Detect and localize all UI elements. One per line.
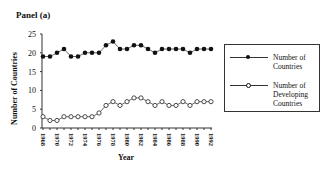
x-tick-label: 1984	[152, 133, 159, 147]
legend-label: Number of Countries	[273, 53, 319, 71]
open-data-point	[41, 115, 45, 119]
open-data-point	[160, 100, 164, 104]
y-tick-label: 10	[28, 86, 36, 95]
legend-label: Number of Developing Countries	[273, 81, 319, 108]
x-tick-label: 1972	[68, 133, 75, 146]
filled-data-point	[90, 51, 95, 56]
open-data-point	[153, 103, 157, 107]
open-data-point	[202, 100, 206, 104]
open-data-point	[62, 115, 66, 119]
x-tick-label: 1968	[40, 133, 47, 147]
x-tick-label: 1982	[138, 133, 145, 146]
y-tick-label: 5	[32, 105, 36, 114]
filled-data-point	[118, 47, 123, 52]
legend: Number of Countries Number of Developing…	[224, 44, 320, 112]
x-tick-label: 1986	[166, 133, 173, 147]
filled-data-point	[181, 47, 186, 52]
filled-data-point	[188, 51, 193, 56]
filled-data-point	[41, 54, 46, 59]
open-data-point	[195, 100, 199, 104]
x-tick-label: 1988	[180, 133, 187, 147]
filled-data-point	[104, 43, 109, 48]
filled-data-point	[160, 47, 165, 52]
x-tick-label: 1974	[82, 133, 89, 147]
filled-data-point	[76, 54, 81, 59]
open-data-point	[104, 103, 108, 107]
open-data-point	[146, 100, 150, 104]
open-data-point	[111, 100, 115, 104]
y-tick-label: 20	[28, 49, 36, 58]
open-circle-marker-icon	[246, 83, 251, 88]
open-data-point	[83, 115, 87, 119]
open-data-point	[76, 115, 80, 119]
x-axis-label: Year	[118, 153, 134, 162]
filled-data-point	[125, 47, 130, 52]
open-data-point	[209, 100, 213, 104]
open-data-point	[69, 115, 73, 119]
x-tick-label: 1976	[96, 133, 103, 147]
open-data-point	[181, 100, 185, 104]
open-data-point	[55, 118, 59, 122]
y-tick-label: 25	[28, 30, 36, 39]
open-data-point	[125, 100, 129, 104]
filled-data-point	[153, 51, 158, 56]
open-data-point	[188, 103, 192, 107]
y-tick-label: 15	[28, 68, 36, 77]
filled-data-point	[167, 47, 172, 52]
filled-data-point	[48, 54, 53, 59]
filled-data-point	[69, 54, 74, 59]
filled-data-point	[174, 47, 179, 52]
y-axis-label: Number of Countries	[10, 49, 19, 129]
open-data-point	[174, 103, 178, 107]
filled-data-point	[195, 47, 200, 52]
filled-data-point	[97, 51, 102, 56]
open-data-point	[167, 103, 171, 107]
open-data-point	[118, 103, 122, 107]
filled-data-point	[55, 51, 60, 56]
x-tick-label: 1970	[54, 133, 61, 146]
x-tick-label: 1978	[110, 133, 117, 147]
x-tick-label: 1990	[194, 133, 201, 146]
x-tick-label: 1992	[208, 133, 215, 146]
open-data-point	[139, 96, 143, 100]
filled-data-point	[111, 39, 116, 44]
open-data-point	[90, 115, 94, 119]
filled-data-point	[139, 43, 144, 48]
filled-data-point	[132, 43, 137, 48]
filled-circle-marker-icon	[246, 55, 250, 59]
y-tick-label: 0	[32, 124, 36, 133]
open-data-point	[48, 118, 52, 122]
filled-data-point	[202, 47, 207, 52]
x-tick-label: 1980	[124, 133, 131, 146]
open-data-point	[132, 96, 136, 100]
filled-data-point	[62, 47, 67, 52]
open-data-point	[97, 111, 101, 115]
filled-data-point	[209, 47, 214, 52]
filled-data-point	[146, 47, 151, 52]
filled-data-point	[83, 51, 88, 56]
